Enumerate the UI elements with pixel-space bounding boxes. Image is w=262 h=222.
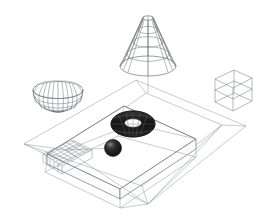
hemisphere-bowl [33, 81, 83, 113]
sphere [105, 140, 122, 157]
cone [120, 16, 176, 76]
scene-canvas [0, 0, 262, 222]
wireframe-scene-svg [0, 0, 262, 222]
torus [111, 111, 155, 137]
wire-box [215, 70, 252, 111]
